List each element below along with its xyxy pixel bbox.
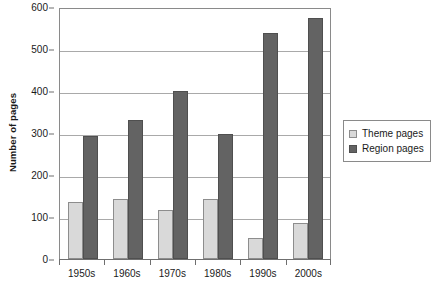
x-axis-tick-label: 1970s (150, 268, 195, 280)
y-axis-tick-mark (49, 176, 54, 177)
x-axis-tick-mark (240, 260, 241, 265)
y-axis-tick-labels: 0100200300400500600 (22, 8, 54, 260)
x-axis-tick-label: 1960s (104, 268, 149, 280)
bar (218, 134, 233, 259)
legend: Theme pagesRegion pages (343, 120, 431, 162)
x-axis-tick-labels: 1950s1960s1970s1980s1990s2000s (59, 268, 331, 280)
y-axis-tick-mark (49, 8, 54, 9)
y-axis-title: Number of pages (2, 0, 24, 265)
y-axis-tick-label: 400 (31, 87, 48, 97)
y-axis-tick-label: 600 (31, 3, 48, 13)
x-axis-tick-mark (195, 260, 196, 265)
bar (113, 199, 128, 259)
y-axis-tick-label: 100 (31, 213, 48, 223)
bar-group (285, 9, 330, 259)
x-axis-tick-mark (59, 260, 60, 265)
legend-swatch-icon (349, 145, 357, 153)
x-axis-tick-label: 2000s (286, 268, 331, 280)
bar (173, 91, 188, 259)
y-axis-tick-label: 200 (31, 171, 48, 181)
x-axis-tick-label: 1980s (195, 268, 240, 280)
x-axis-tick-mark (104, 260, 105, 265)
legend-item-label: Region pages (362, 143, 424, 154)
bar-chart: Number of pages 0100200300400500600 1950… (0, 0, 434, 303)
bar (263, 33, 278, 259)
x-axis-tick-marks (59, 260, 331, 266)
bar (293, 223, 308, 259)
y-axis-tick-mark (49, 218, 54, 219)
bars-layer (60, 9, 330, 259)
x-axis-tick-label: 1950s (59, 268, 104, 280)
bar (83, 136, 98, 259)
bar (128, 120, 143, 259)
x-axis-tick-mark (330, 260, 331, 265)
bar (203, 199, 218, 259)
plot-area (59, 8, 331, 260)
y-axis-tick-mark (49, 260, 54, 261)
y-axis-tick-label: 500 (31, 45, 48, 55)
bar-group (105, 9, 150, 259)
y-axis-tick-label: 300 (31, 129, 48, 139)
bar (248, 238, 263, 259)
bar (308, 18, 323, 260)
bar (68, 202, 83, 259)
legend-item: Region pages (349, 141, 424, 156)
bar-group (195, 9, 240, 259)
y-axis-tick-mark (49, 92, 54, 93)
legend-swatch-icon (349, 130, 357, 138)
x-axis-tick-mark (286, 260, 287, 265)
bar-group (150, 9, 195, 259)
bar-group (240, 9, 285, 259)
legend-item: Theme pages (349, 126, 424, 141)
bar-group (60, 9, 105, 259)
y-axis-tick-mark (49, 50, 54, 51)
x-axis-tick-label: 1990s (240, 268, 285, 280)
y-axis-tick-mark (49, 134, 54, 135)
bar (158, 210, 173, 259)
y-axis-title-text: Number of pages (8, 93, 19, 172)
legend-item-label: Theme pages (362, 128, 423, 139)
x-axis-tick-mark (150, 260, 151, 265)
y-axis-tick-label: 0 (42, 255, 48, 265)
